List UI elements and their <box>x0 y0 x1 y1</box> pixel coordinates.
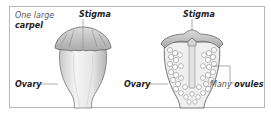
left-ovary-label: Ovary <box>15 80 42 89</box>
whole-carpel-drawing <box>40 19 111 108</box>
ovules-label: ovules <box>234 80 263 89</box>
many-label: Many <box>210 80 232 89</box>
section-carpel-drawing <box>150 19 234 108</box>
carpel-annotation: carpel <box>15 21 43 30</box>
many-ovules-label: Many ovules <box>210 80 264 89</box>
right-ovary-label: Ovary <box>124 80 151 89</box>
left-stigma-label: Stigma <box>79 10 111 19</box>
right-stigma-label: Stigma <box>183 10 215 19</box>
one-large-annotation: One large <box>15 11 54 20</box>
